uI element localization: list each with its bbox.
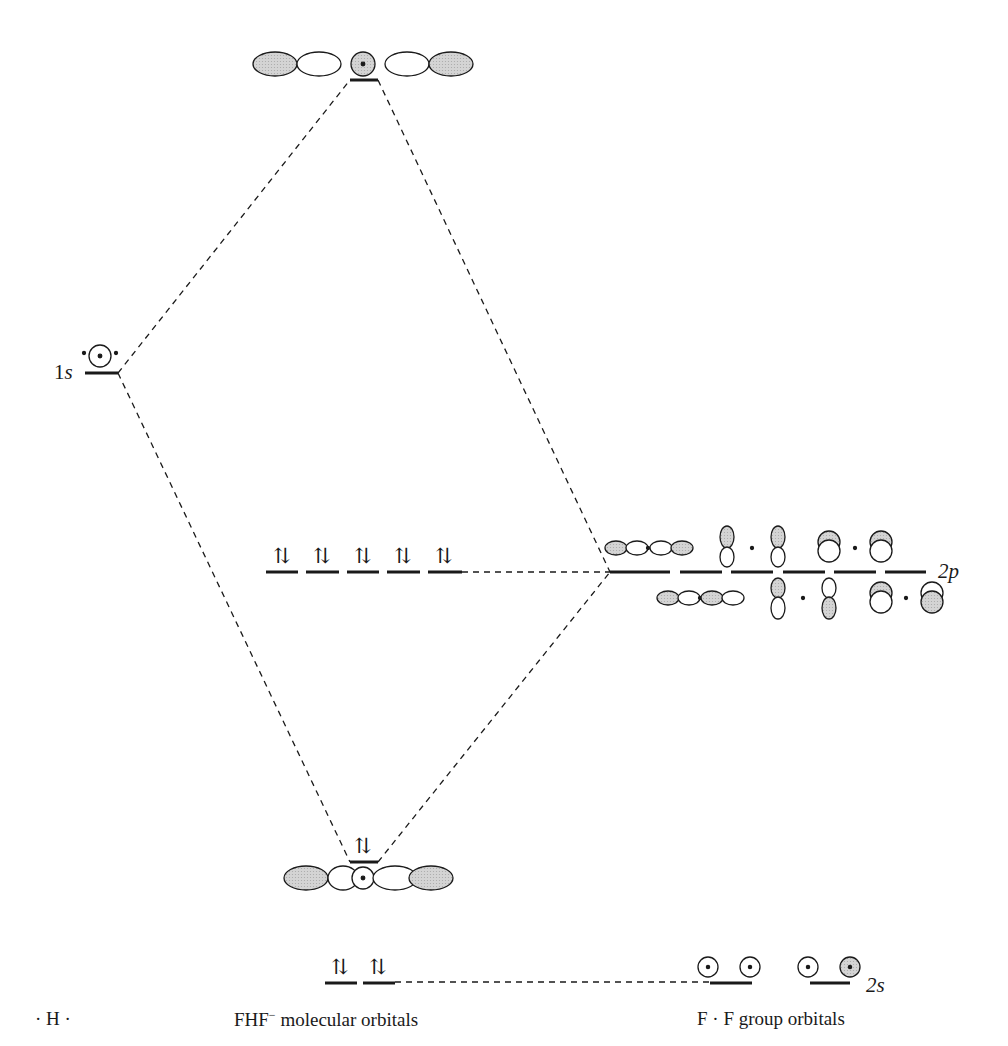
electron-pair-2p-5: ⇅ xyxy=(435,544,453,569)
f-2p-lower-orbitals xyxy=(657,578,943,619)
correlation-lines xyxy=(118,80,710,982)
electron-pair-bonding: ⇅ xyxy=(354,834,372,859)
electron-pair-2p-2: ⇅ xyxy=(313,544,331,569)
bonding-sigma-level xyxy=(284,862,453,890)
electron-pair-2s-2: ⇅ xyxy=(369,955,387,980)
electron-pair-2p-3: ⇅ xyxy=(354,544,372,569)
electron-pair-2p-1: ⇅ xyxy=(273,544,291,569)
diagram-graphics xyxy=(0,0,1008,1046)
f-2s-label: 2s xyxy=(866,973,885,998)
mo-diagram: ⇅ ⇅ ⇅ ⇅ ⇅ ⇅ ⇅ ⇅ 1s 2p 2s · H · FHF− mole… xyxy=(0,0,1008,1046)
h-atom-caption: · H · xyxy=(35,1008,71,1030)
f-2s-group-levels xyxy=(698,957,860,983)
h-1s-label: 1s xyxy=(54,360,73,385)
electron-pair-2p-4: ⇅ xyxy=(394,544,412,569)
ff-group-caption: F · F group orbitals xyxy=(697,1008,845,1030)
f-2p-upper-orbitals xyxy=(605,526,892,567)
antibonding-sigma-level xyxy=(253,52,473,80)
electron-pair-2s-1: ⇅ xyxy=(331,955,349,980)
h-1s-level xyxy=(83,345,119,373)
f-2p-label: 2p xyxy=(938,559,959,584)
fhf-mo-caption: FHF− molecular orbitals xyxy=(234,1008,418,1031)
